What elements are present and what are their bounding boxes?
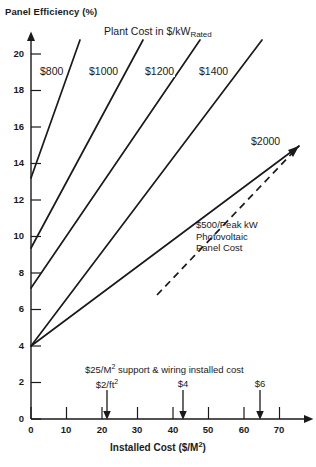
note-photovoltaic-panel-cost: $500/Peak kW Photovoltaic Panel Cost: [196, 219, 258, 254]
y-tick-label-0: 0: [2, 413, 24, 424]
y-tick-label-20: 20: [2, 48, 24, 59]
x-tick-label-70: 70: [266, 424, 292, 435]
series-line-1400: [31, 40, 262, 346]
x-marker-label-4: $4: [168, 378, 198, 389]
note-support-rest: support & wiring installed cost: [115, 364, 243, 375]
y-tick-label-18: 18: [2, 84, 24, 95]
x-marker-label-2-main: $2/ft: [96, 379, 115, 390]
series-line-2000: [31, 146, 299, 346]
x-axis-title-end: ): [203, 442, 206, 453]
x-tick-label-20: 20: [89, 424, 115, 435]
x-marker-label-6: $6: [245, 378, 275, 389]
y-tick-label-6: 6: [2, 303, 24, 314]
note-pv-line-2: Photovoltaic: [196, 231, 258, 243]
x-tick-label-50: 50: [195, 424, 221, 435]
series-label-1400: $1400: [198, 65, 229, 77]
x-tick-label-0: 0: [18, 424, 44, 435]
series-line-1200: [31, 40, 200, 288]
y-tick-label-10: 10: [2, 230, 24, 241]
series-label-1000: $1000: [88, 65, 119, 77]
chart-container: Panel Efficiency (%) Plant Cost in $/kWR…: [0, 0, 316, 467]
note-support-wiring-cost: $25/M2 support & wiring installed cost: [85, 363, 244, 375]
y-tick-label-2: 2: [2, 376, 24, 387]
series-label-1200: $1200: [144, 65, 175, 77]
y-axis-ticks: [31, 54, 41, 419]
note-support-main: $25/M: [85, 364, 111, 375]
x-tick-label-30: 30: [124, 424, 150, 435]
series-label-2000: $2000: [250, 135, 281, 147]
x-tick-label-60: 60: [231, 424, 257, 435]
x-marker-arrows: [107, 390, 260, 412]
y-tick-label-4: 4: [2, 340, 24, 351]
series-line-800: [31, 40, 80, 178]
y-tick-label-16: 16: [2, 121, 24, 132]
series-label-800: $800: [39, 65, 64, 77]
x-tick-label-40: 40: [160, 424, 186, 435]
y-tick-label-12: 12: [2, 194, 24, 205]
note-pv-line-1: $500/Peak kW: [196, 219, 258, 231]
y-tick-label-14: 14: [2, 157, 24, 168]
note-pv-line-3: Panel Cost: [196, 242, 258, 254]
x-axis-ticks: [31, 407, 280, 419]
y-tick-label-8: 8: [2, 267, 24, 278]
x-axis-title-main: Installed Cost ($/M: [110, 442, 198, 453]
x-tick-label-10: 10: [53, 424, 79, 435]
x-axis-title: Installed Cost ($/M2): [0, 440, 316, 453]
x-marker-label-2-superscript: 2: [114, 378, 118, 385]
x-marker-label-2-per-sqft: $2/ft2: [80, 378, 134, 390]
